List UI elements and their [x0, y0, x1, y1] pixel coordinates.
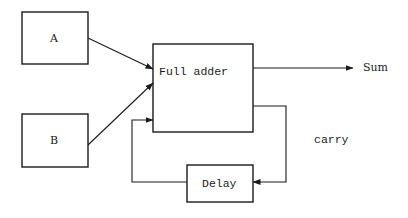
carry-path	[253, 106, 286, 182]
label-delay: Delay	[202, 178, 237, 190]
arrow-b-to-adder	[88, 83, 153, 145]
feedback-path	[132, 120, 187, 182]
box-full-adder	[153, 44, 253, 132]
label-a: A	[50, 33, 58, 44]
arrow-a-to-adder	[88, 38, 153, 69]
label-full-adder: Full adder	[159, 66, 228, 78]
label-sum: Sum	[363, 62, 388, 73]
label-b: B	[50, 135, 58, 146]
label-carry: carry	[314, 134, 349, 146]
full-adder-diagram: A B Full adder Delay Sum carry	[0, 0, 408, 218]
